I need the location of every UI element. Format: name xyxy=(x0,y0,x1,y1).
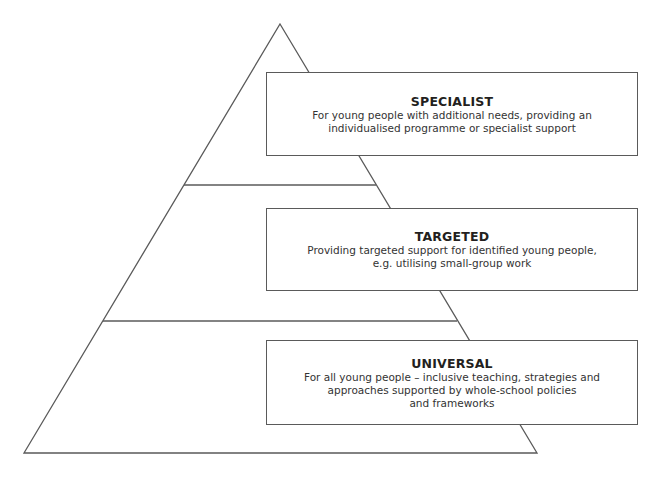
tier-description-universal: For all young people – inclusive teachin… xyxy=(304,371,600,410)
tier-box-universal: UNIVERSAL For all young people – inclusi… xyxy=(266,340,638,425)
tier-description-specialist: For young people with additional needs, … xyxy=(312,109,592,135)
tier-title-universal: UNIVERSAL xyxy=(411,356,493,371)
tier-box-specialist: SPECIALIST For young people with additio… xyxy=(266,72,638,156)
tier-description-targeted: Providing targeted support for identifie… xyxy=(307,244,597,270)
tier-box-targeted: TARGETED Providing targeted support for … xyxy=(266,208,638,291)
tier-title-specialist: SPECIALIST xyxy=(411,94,493,109)
tier-title-targeted: TARGETED xyxy=(415,229,490,244)
